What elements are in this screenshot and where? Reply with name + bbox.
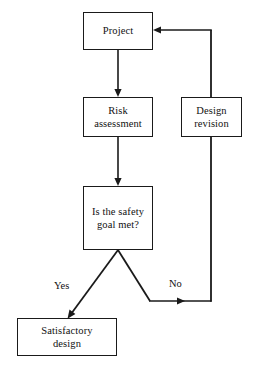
node-project-label: Project <box>100 24 136 37</box>
edge-label-yes: Yes <box>54 281 69 292</box>
node-design-revision-label: Design revision <box>191 104 232 130</box>
node-risk-assessment[interactable]: Risk assessment <box>83 97 153 137</box>
edge-risk-to-decision <box>114 137 121 186</box>
edge-label-no: No <box>169 279 182 290</box>
flowchart-diagram: Project Risk assessment Design revision … <box>0 0 260 369</box>
node-satisfactory-design-label: Satisfactory design <box>38 324 95 350</box>
node-risk-assessment-label: Risk assessment <box>91 104 145 130</box>
edge-design-to-project <box>153 26 212 97</box>
node-project[interactable]: Project <box>83 12 153 50</box>
node-safety-goal-decision[interactable]: Is the safety goal met? <box>83 186 153 250</box>
node-safety-goal-decision-label: Is the safety goal met? <box>89 205 147 231</box>
node-satisfactory-design[interactable]: Satisfactory design <box>17 318 117 356</box>
edge-decision-to-satisfactory <box>68 250 119 319</box>
edge-project-to-risk <box>114 50 121 97</box>
flowchart-connectors <box>0 0 260 369</box>
node-design-revision[interactable]: Design revision <box>181 97 242 137</box>
